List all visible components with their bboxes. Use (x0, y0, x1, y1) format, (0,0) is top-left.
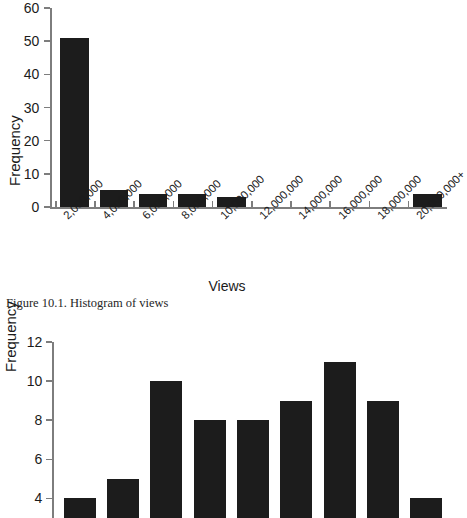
x-axis-tick (251, 201, 253, 207)
y-axis-tick-label: 4 (8, 491, 42, 505)
y-axis-tick (46, 459, 52, 461)
histogram-bar (367, 401, 399, 518)
histogram-bar (280, 401, 312, 518)
x-axis-tick (329, 201, 331, 207)
y-axis-tick (44, 107, 50, 109)
histogram-bar (194, 420, 226, 518)
histogram-bar (60, 38, 88, 207)
y-axis-tick-label: 12 (8, 335, 42, 349)
y-axis-tick-label: 50 (5, 34, 39, 48)
y-axis-tick (46, 498, 52, 500)
x-axis-tick (173, 201, 175, 207)
y-axis-tick (44, 40, 50, 42)
x-axis-tick (212, 201, 214, 207)
y-axis-line (50, 8, 52, 208)
x-axis-tick (133, 201, 135, 207)
x-axis-title-views-chart: Views (0, 278, 454, 294)
figure-second-histogram: Frequency 4681012 (0, 330, 454, 488)
figure-histogram-of-views: Frequency 01020304050602,000,0004,000,00… (0, 0, 454, 300)
histogram-bar (237, 420, 269, 518)
x-axis-tick (94, 201, 96, 207)
histogram-bar (64, 498, 96, 518)
y-axis-tick-label: 40 (5, 67, 39, 81)
y-axis-tick (46, 341, 52, 343)
figure-caption: Figure 10.1. Histogram of views (6, 296, 168, 311)
x-axis-tick (408, 201, 410, 207)
y-axis-tick-label: 0 (5, 200, 39, 214)
y-axis-tick (44, 173, 50, 175)
histogram-bar (107, 479, 139, 518)
y-axis-line (52, 342, 54, 518)
y-axis-tick (46, 419, 52, 421)
histogram-bar (410, 498, 442, 518)
y-axis-tick (44, 206, 50, 208)
histogram-bar (150, 381, 182, 518)
y-axis-tick-label: 60 (5, 1, 39, 15)
y-axis-tick (44, 7, 50, 9)
x-axis-tick (369, 201, 371, 207)
y-axis-tick-label: 10 (5, 167, 39, 181)
y-axis-tick-label: 6 (8, 452, 42, 466)
y-axis-tick (44, 140, 50, 142)
x-axis-tick (290, 201, 292, 207)
plot-area-second-chart: 4681012 (58, 342, 448, 518)
histogram-bar (324, 362, 356, 518)
y-axis-tick (44, 74, 50, 76)
plot-area-views-chart: 01020304050602,000,0004,000,0006,000,000… (55, 8, 447, 207)
y-axis-tick (46, 380, 52, 382)
y-axis-tick-label: 30 (5, 101, 39, 115)
x-axis-tick (55, 201, 57, 207)
y-axis-tick-label: 8 (8, 413, 42, 427)
y-axis-tick-label: 20 (5, 134, 39, 148)
y-axis-tick-label: 10 (8, 374, 42, 388)
